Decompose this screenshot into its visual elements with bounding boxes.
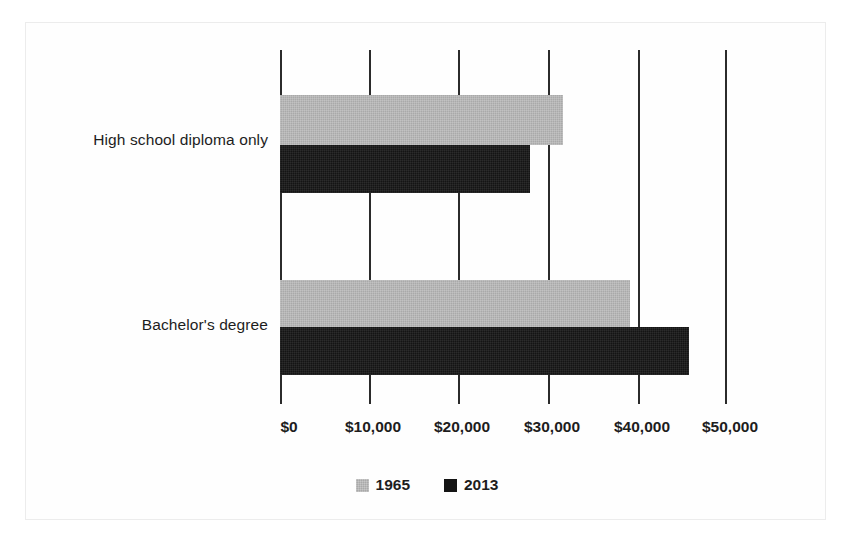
bar-bachelors-2013 bbox=[280, 327, 689, 375]
y-axis-labels: High school diploma only Bachelor's degr… bbox=[0, 0, 268, 546]
bar-bachelors-1965 bbox=[280, 280, 630, 327]
y-axis-label-bachelors: Bachelor's degree bbox=[142, 316, 268, 334]
x-tick-label-20000: $20,000 bbox=[434, 418, 490, 436]
x-axis-tick-labels: $0 $10,000 $20,000 $30,000 $40,000 $50,0… bbox=[0, 418, 854, 444]
plot-area bbox=[280, 50, 727, 404]
chart-legend: 1965 2013 bbox=[0, 470, 854, 500]
legend-swatch-2013-icon bbox=[444, 479, 457, 492]
x-tick-label-40000: $40,000 bbox=[614, 418, 670, 436]
bar-high-school-1965 bbox=[280, 95, 563, 145]
y-axis-label-high-school: High school diploma only bbox=[93, 131, 268, 149]
legend-swatch-1965-icon bbox=[356, 479, 369, 492]
legend-label-2013: 2013 bbox=[464, 476, 498, 494]
x-tick-label-50000: $50,000 bbox=[702, 418, 758, 436]
legend-item-1965: 1965 bbox=[356, 476, 410, 494]
x-tick-label-10000: $10,000 bbox=[345, 418, 401, 436]
x-tick-label-30000: $30,000 bbox=[524, 418, 580, 436]
legend-item-2013: 2013 bbox=[444, 476, 498, 494]
chart-figure: High school diploma only Bachelor's degr… bbox=[0, 0, 854, 546]
legend-label-1965: 1965 bbox=[376, 476, 410, 494]
gridline-50000 bbox=[725, 50, 727, 404]
bar-high-school-2013 bbox=[280, 145, 530, 193]
x-tick-label-0: $0 bbox=[280, 418, 297, 436]
